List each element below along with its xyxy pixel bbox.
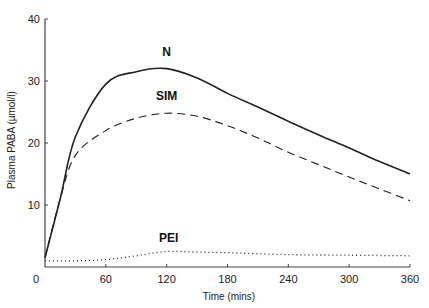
series-label-pei: PEI — [159, 231, 178, 245]
x-tick-label: 240 — [279, 273, 297, 285]
chart-canvas: 06012018024030036010203040 NSIMPEI Time … — [0, 0, 429, 308]
series-label-sim: SIM — [156, 89, 177, 103]
y-tick-label: 10 — [28, 199, 40, 211]
x-tick-label: 300 — [340, 273, 358, 285]
line-chart: 06012018024030036010203040 NSIMPEI Time … — [0, 0, 429, 308]
y-tick-label: 40 — [28, 13, 40, 25]
series-pei-line — [45, 251, 410, 261]
x-tick-label: 120 — [157, 273, 175, 285]
x-tick-label: 180 — [218, 273, 236, 285]
y-tick-label: 20 — [28, 137, 40, 149]
series-labels: NSIMPEI — [156, 45, 178, 245]
x-tick-label: 60 — [100, 273, 112, 285]
x-tick-label: 360 — [401, 273, 419, 285]
series-label-n: N — [162, 45, 171, 59]
y-axis-title: Plasma PABA (µmol/l) — [6, 91, 17, 189]
x-axis-title: Time (mins) — [203, 291, 255, 302]
axes — [45, 19, 410, 267]
axis-ticks: 06012018024030036010203040 — [28, 13, 419, 285]
series-sim-line — [45, 113, 410, 258]
series-lines — [45, 68, 410, 261]
series-n-line — [45, 68, 410, 257]
y-tick-label: 30 — [28, 75, 40, 87]
x-tick-label: 0 — [33, 273, 39, 285]
